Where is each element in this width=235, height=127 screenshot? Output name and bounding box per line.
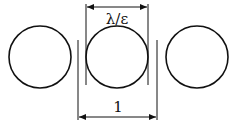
cylinder-array-diagram: λ/ε 1 [0,0,235,127]
top-dimension-label: λ/ε [106,10,129,28]
bottom-dimension-label: 1 [113,98,123,116]
middle-circle [86,26,148,88]
right-circle [166,26,228,88]
left-circle [9,26,71,88]
